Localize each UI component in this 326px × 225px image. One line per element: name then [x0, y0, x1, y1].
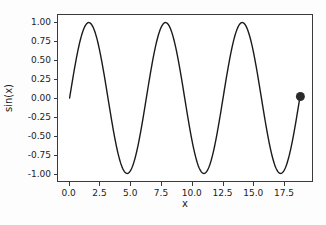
x-tick-mark: [69, 182, 70, 186]
x-tick-label: 2.5: [92, 189, 106, 198]
x-tick-label: 10.0: [182, 189, 202, 198]
x-tick-label: 15.0: [243, 189, 263, 198]
y-tick-label: 0.75: [31, 36, 51, 45]
y-tick-label: 0.25: [31, 74, 51, 83]
end-point-marker: [296, 92, 305, 101]
matplotlib-figure: sin(x) x 1.000.750.500.250.00-0.25-0.50-…: [0, 0, 326, 225]
chart-canvas: [58, 15, 312, 181]
x-tick-mark: [130, 182, 131, 186]
x-tick-mark: [192, 182, 193, 186]
x-tick-label: 7.5: [154, 189, 168, 198]
y-tick-label: 0.50: [31, 55, 51, 64]
y-tick-label: -1.00: [28, 170, 51, 179]
x-tick-label: 17.5: [274, 189, 294, 198]
x-axis-label: x: [182, 198, 188, 209]
y-tick-label: -0.25: [28, 113, 51, 122]
plot-area: [57, 14, 313, 182]
y-tick-label: 0.00: [31, 94, 51, 103]
x-tick-mark: [99, 182, 100, 186]
x-tick-mark: [223, 182, 224, 186]
x-tick-label: 12.5: [213, 189, 233, 198]
sine-curve-line: [70, 23, 301, 174]
x-tick-mark: [284, 182, 285, 186]
y-tick-label: -0.50: [28, 132, 51, 141]
x-tick-mark: [161, 182, 162, 186]
x-tick-label: 0.0: [62, 189, 76, 198]
y-tick-label: -0.75: [28, 151, 51, 160]
x-tick-label: 5.0: [123, 189, 137, 198]
x-tick-mark: [253, 182, 254, 186]
y-tick-label: 1.00: [31, 17, 51, 26]
y-axis-label: sin(x): [3, 84, 14, 112]
